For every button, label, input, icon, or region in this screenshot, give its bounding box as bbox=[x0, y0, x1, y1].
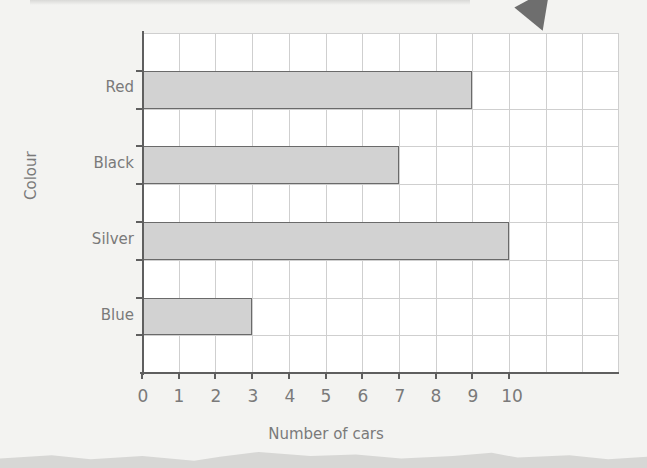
x-tick bbox=[435, 372, 437, 379]
y-tick bbox=[136, 259, 143, 261]
x-tick bbox=[325, 372, 327, 379]
x-axis-title: Number of cars bbox=[246, 425, 406, 443]
y-tick bbox=[136, 334, 143, 336]
y-axis-line bbox=[142, 31, 144, 375]
x-tick bbox=[214, 372, 216, 379]
x-tick-label: 2 bbox=[201, 386, 231, 406]
pencil-tip-decoration bbox=[514, 0, 565, 37]
y-tick bbox=[136, 221, 143, 223]
x-tick-label: 0 bbox=[128, 386, 158, 406]
x-tick bbox=[398, 372, 400, 379]
x-tick-label: 7 bbox=[385, 386, 415, 406]
bar-black bbox=[144, 146, 399, 184]
x-tick bbox=[288, 372, 290, 379]
bar-silver bbox=[144, 222, 509, 260]
y-tick bbox=[136, 70, 143, 72]
torn-paper-edge bbox=[0, 452, 647, 468]
category-label-black: Black bbox=[34, 154, 134, 172]
y-tick bbox=[136, 108, 143, 110]
x-tick bbox=[471, 372, 473, 379]
y-tick bbox=[136, 145, 143, 147]
x-tick-label: 5 bbox=[311, 386, 341, 406]
y-axis-title: Colour bbox=[22, 151, 40, 200]
category-label-silver: Silver bbox=[34, 230, 134, 248]
x-tick-label: 10 bbox=[497, 386, 527, 406]
x-tick-label: 6 bbox=[348, 386, 378, 406]
page-edge-top bbox=[30, 0, 470, 5]
x-tick-label: 9 bbox=[458, 386, 488, 406]
x-tick-label: 4 bbox=[275, 386, 305, 406]
x-tick-label: 8 bbox=[421, 386, 451, 406]
y-tick bbox=[136, 183, 143, 185]
x-tick bbox=[141, 372, 143, 379]
y-tick bbox=[136, 297, 143, 299]
x-tick bbox=[508, 372, 510, 379]
x-axis-line bbox=[140, 372, 619, 374]
bar-red bbox=[144, 71, 472, 109]
category-label-blue: Blue bbox=[34, 306, 134, 324]
x-tick-label: 1 bbox=[164, 386, 194, 406]
x-tick bbox=[361, 372, 363, 379]
category-label-red: Red bbox=[34, 78, 134, 96]
x-tick bbox=[251, 372, 253, 379]
bar-blue bbox=[144, 298, 252, 336]
x-tick bbox=[178, 372, 180, 379]
x-tick-label: 3 bbox=[238, 386, 268, 406]
